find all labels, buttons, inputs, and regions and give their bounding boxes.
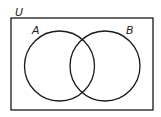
set-a-circle — [25, 31, 95, 101]
universe-label: U — [15, 6, 23, 19]
venn-diagram: U A B — [0, 0, 161, 117]
set-b-circle — [70, 31, 140, 101]
set-a-label: A — [31, 24, 40, 37]
set-b-label: B — [126, 24, 134, 37]
